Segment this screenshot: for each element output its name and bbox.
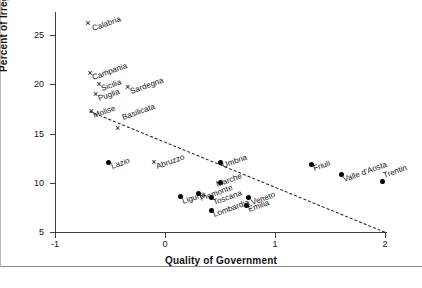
y-tick-label: 10 [24, 179, 44, 188]
x-axis-line [55, 232, 387, 233]
x-tick [165, 233, 166, 238]
y-tick-label: 15 [24, 130, 44, 139]
y-tick-label: 20 [24, 80, 44, 89]
y-tick-label: 5 [24, 228, 44, 237]
x-tick-label: 0 [154, 240, 176, 249]
chart-figure: Percent of Irregular Work Quality of Gov… [0, 0, 422, 288]
x-tick-label: -1 [44, 240, 66, 249]
x-tick-label: 2 [374, 240, 396, 249]
y-tick-label: 25 [24, 31, 44, 40]
cross-marker-icon: × [85, 20, 91, 26]
figure-bottom-border [0, 266, 422, 267]
x-tick [275, 233, 276, 238]
y-axis-title: Percent of Irregular Work [0, 0, 9, 72]
x-tick [385, 233, 386, 238]
cross-marker-icon: × [115, 125, 121, 131]
x-tick-label: 1 [264, 240, 286, 249]
x-tick [55, 233, 56, 238]
x-axis-title: Quality of Government [55, 255, 387, 266]
